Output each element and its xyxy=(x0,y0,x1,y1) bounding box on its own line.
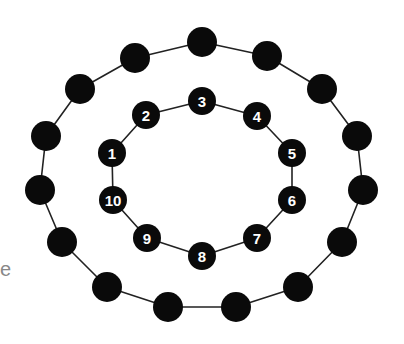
outer-ring-node xyxy=(307,74,337,104)
node-label: 2 xyxy=(142,107,150,124)
outer-ring-node xyxy=(25,175,55,205)
node-label: 5 xyxy=(288,145,296,162)
outer-ring-node xyxy=(252,41,282,71)
node-label: 3 xyxy=(198,93,206,110)
node-label: 4 xyxy=(253,108,262,125)
outer-ring-node xyxy=(120,43,150,73)
node-label: 8 xyxy=(198,248,206,265)
outer-ring-node xyxy=(221,292,251,322)
outer-ring-node xyxy=(31,121,61,151)
outer-ring-node xyxy=(153,292,183,322)
inner-ring: 12345678910 xyxy=(98,87,306,270)
node-label: 1 xyxy=(108,145,116,162)
outer-ring-node xyxy=(47,227,77,257)
outer-ring-node xyxy=(342,121,372,151)
outer-ring-node xyxy=(187,27,217,57)
outer-ring-node xyxy=(92,272,122,302)
ring-diagram: 12345678910 xyxy=(0,0,404,344)
node-label: 6 xyxy=(288,192,296,209)
outer-ring-node xyxy=(283,272,313,302)
outer-ring-node xyxy=(65,74,95,104)
outer-ring-node xyxy=(327,227,357,257)
outer-ring xyxy=(25,27,378,322)
outer-ring-node xyxy=(348,175,378,205)
node-label: 9 xyxy=(143,230,151,247)
node-label: 10 xyxy=(105,192,122,209)
node-label: 7 xyxy=(253,230,261,247)
